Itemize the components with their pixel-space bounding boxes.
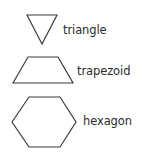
shape-label-trapezoid: trapezoid xyxy=(77,64,130,78)
shape-label-triangle: triangle xyxy=(63,23,107,37)
trapezoid-polygon xyxy=(13,57,73,83)
shapes-figure: triangle trapezoid hexagon xyxy=(0,0,142,152)
shape-row-hexagon xyxy=(11,95,78,149)
triangle-polygon xyxy=(27,15,57,44)
shape-row-trapezoid xyxy=(12,55,75,85)
triangle-shape-icon xyxy=(26,14,59,46)
trapezoid-shape-icon xyxy=(12,55,75,85)
hexagon-shape-icon xyxy=(11,95,78,149)
shape-label-hexagon: hexagon xyxy=(83,114,132,128)
shape-row-triangle xyxy=(26,14,59,46)
hexagon-polygon xyxy=(12,97,76,147)
